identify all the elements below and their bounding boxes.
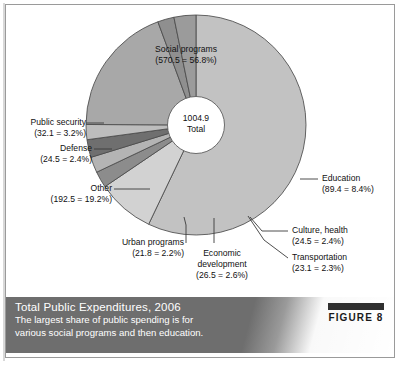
figure-badge: FIGURE 8 [326, 303, 386, 323]
caption-subtitle-line2: various social programs and then educati… [15, 327, 203, 340]
center-total: 1004.9 Total [161, 113, 231, 135]
caption-band: Total Public Expenditures, 2006 The larg… [6, 297, 394, 353]
slice-label-other: Other (192.5 = 19.2%) [18, 183, 112, 205]
slice-label-economic-development: Economic development (26.5 = 2.6%) [177, 248, 267, 281]
slice-label-culture-health: Culture, health (24.5 = 2.4%) [292, 225, 388, 247]
pie-chart: Social programs (570.5 = 56.8%) 1004.9 T… [0, 0, 402, 300]
caption-title: Total Public Expenditures, 2006 [15, 301, 203, 313]
slice-label-transportation: Transportation (23.1 = 2.3%) [292, 252, 388, 274]
slice-label-urban-programs: Urban programs (21.8 = 2.2%) [102, 237, 184, 259]
caption-subtitle-line1: The largest share of public spending is … [15, 314, 203, 327]
figure-container: Social programs (570.5 = 56.8%) 1004.9 T… [0, 0, 402, 366]
figure-badge-label: FIGURE 8 [326, 312, 386, 323]
slice-label-education: Education (89.4 = 8.4%) [322, 173, 400, 195]
slice-label-social-programs: Social programs (570.5 = 56.8%) [126, 44, 246, 66]
caption-subtitle: The largest share of public spending is … [15, 314, 203, 339]
slice-label-public-security: Public security (32.1 = 3.2%) [14, 117, 86, 139]
slice-label-defense: Defense (24.5 = 2.4%) [18, 143, 92, 165]
figure-badge-bar [328, 303, 384, 310]
caption-text-block: Total Public Expenditures, 2006 The larg… [15, 301, 203, 339]
